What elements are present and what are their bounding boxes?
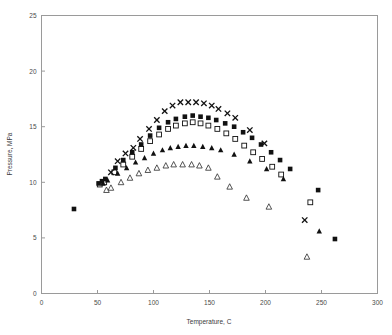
data-point-filled-square (130, 150, 135, 155)
x-tick-label: 150 (204, 299, 215, 306)
y-tick-label: 0 (33, 290, 37, 297)
data-point-open-square (166, 127, 171, 132)
data-point-filled-square (241, 130, 246, 135)
data-point-filled-square (232, 124, 237, 129)
y-axis-title: Pressure, MPa (6, 132, 13, 175)
data-point-filled-square (333, 237, 338, 242)
data-point-filled-square (223, 121, 228, 126)
data-point-filled-square (183, 114, 188, 119)
data-point-filled-square (148, 133, 153, 138)
data-point-open-square (148, 139, 153, 144)
chart-background (0, 0, 392, 335)
data-point-open-square (270, 164, 275, 169)
y-tick-label: 25 (29, 12, 37, 19)
data-point-filled-square (206, 116, 211, 121)
data-point-filled-square (121, 158, 126, 163)
data-point-open-square (242, 143, 247, 148)
data-point-filled-square (72, 207, 77, 212)
x-axis-title: Temperature, C (187, 318, 232, 326)
data-point-open-square (121, 162, 126, 167)
y-tick-label: 20 (29, 68, 37, 75)
data-point-open-square (260, 157, 265, 162)
data-point-filled-square (214, 118, 219, 123)
y-tick-label: 5 (33, 234, 37, 241)
data-point-filled-square (103, 177, 108, 182)
data-point-open-square (206, 123, 211, 128)
data-point-filled-square (139, 142, 144, 147)
data-point-filled-square (288, 167, 293, 172)
data-point-open-square (279, 172, 284, 177)
x-tick-label: 0 (40, 299, 44, 306)
data-point-open-square (190, 120, 195, 125)
x-tick-label: 300 (372, 299, 383, 306)
data-point-filled-square (190, 113, 195, 118)
x-tick-label: 100 (148, 299, 159, 306)
y-tick-label: 10 (29, 179, 37, 186)
data-point-filled-square (278, 158, 283, 163)
x-tick-label: 250 (316, 299, 327, 306)
data-point-filled-square (250, 136, 255, 141)
chart-container: 050100150200250300 0510152025 Temperatur… (0, 0, 392, 335)
x-tick-label: 200 (260, 299, 271, 306)
scatter-plot: 050100150200250300 0510152025 Temperatur… (0, 0, 392, 335)
data-point-filled-square (316, 188, 321, 193)
y-tick-label: 15 (29, 123, 37, 130)
data-point-filled-square (198, 114, 203, 119)
data-point-open-square (139, 147, 144, 152)
x-tick-label: 50 (94, 299, 102, 306)
data-point-open-square (215, 127, 220, 132)
data-point-open-square (198, 121, 203, 126)
data-point-open-square (308, 200, 313, 205)
data-point-open-square (233, 137, 238, 142)
data-point-open-square (251, 150, 256, 155)
data-point-filled-square (166, 120, 171, 125)
data-point-filled-square (157, 126, 162, 131)
data-point-open-square (174, 123, 179, 128)
data-point-open-square (224, 131, 229, 136)
data-point-open-square (157, 132, 162, 137)
data-point-open-square (182, 121, 187, 126)
data-point-filled-square (113, 166, 118, 171)
data-point-filled-square (269, 150, 274, 155)
data-point-open-square (130, 154, 135, 159)
data-point-filled-square (174, 117, 179, 122)
